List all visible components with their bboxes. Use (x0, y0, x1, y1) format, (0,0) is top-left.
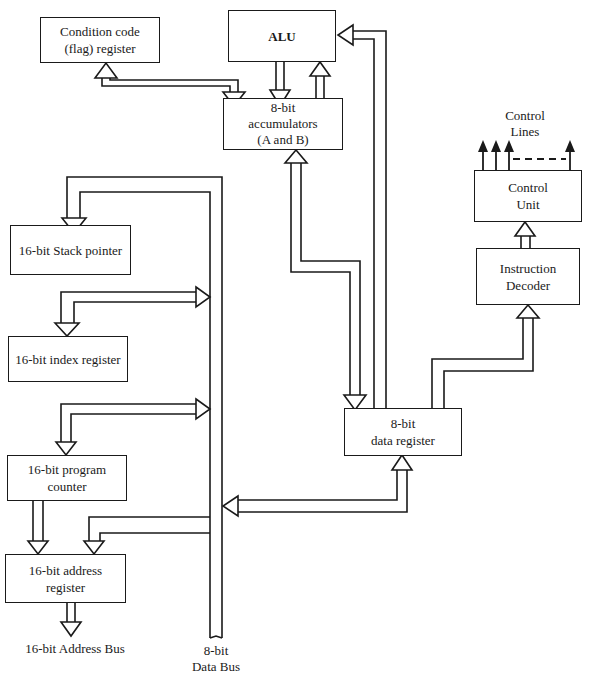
alu-block: ALU (228, 10, 336, 62)
accumulator-data-register-link (285, 150, 366, 410)
pc-bus-link (56, 399, 210, 455)
data-bus-label: 8-bit Data Bus (186, 643, 246, 674)
data-register-block: 8-bitdata register (344, 408, 462, 456)
bus-to-address-path (84, 517, 210, 554)
control-unit-block: ControlUnit (474, 170, 582, 222)
address-bus-label: 16-bit Address Bus (10, 641, 140, 657)
control-lines (478, 140, 575, 170)
decoder-to-control-arrow (515, 222, 535, 248)
address-register-block: 16-bit addressregister (5, 554, 126, 603)
data-register-to-decoder-path (432, 305, 539, 408)
data-register-bus-link (223, 455, 412, 516)
flag-register-block: Condition code(flag) register (40, 17, 160, 63)
instruction-decoder-block: InstructionDecoder (476, 248, 580, 305)
data-register-to-alu-path (338, 25, 386, 410)
stack-pointer-block: 16-bit Stack pointer (10, 225, 131, 275)
index-register-block: 16-bit index register (8, 336, 128, 382)
address-bus-arrow (61, 603, 81, 636)
accumulator-to-alu-arrow (310, 62, 330, 98)
accumulators-block: 8-bitaccumulators(A and B) (223, 98, 343, 150)
index-bus-link (55, 287, 210, 336)
program-counter-block: 16-bit programcounter (7, 455, 127, 501)
pc-to-address-arrow (28, 500, 48, 554)
control-lines-label: Control Lines (490, 108, 560, 140)
